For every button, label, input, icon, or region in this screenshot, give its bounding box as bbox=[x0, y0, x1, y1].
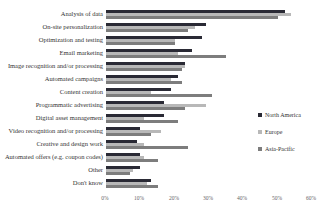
bar-chart: Analysis of dataOn-site personalizationO… bbox=[0, 0, 325, 219]
bar-group bbox=[106, 75, 311, 84]
category-label: Creative and design work bbox=[0, 141, 106, 148]
category-label: Automated offers (e.g. coupon codes) bbox=[0, 154, 106, 161]
bar-group bbox=[106, 36, 311, 45]
bar-group bbox=[106, 62, 311, 71]
category-label: Automated campaigns bbox=[0, 76, 106, 83]
bar-asia-pacific bbox=[106, 133, 151, 136]
category-label: Email marketing bbox=[0, 50, 106, 57]
bar-asia-pacific bbox=[106, 120, 178, 123]
x-tick-label: 30% bbox=[203, 195, 213, 201]
bar-group bbox=[106, 179, 311, 188]
bar-group bbox=[106, 23, 311, 32]
legend: North AmericaEuropeAsia-Pacific bbox=[258, 111, 301, 162]
chart-row: Analysis of data bbox=[0, 8, 311, 21]
chart-row: Automated campaigns bbox=[0, 73, 311, 86]
bar-group bbox=[106, 101, 311, 110]
legend-item-asia-pacific: Asia-Pacific bbox=[258, 145, 301, 152]
legend-label: Asia-Pacific bbox=[265, 146, 295, 152]
category-label: Video recognition and/or processing bbox=[0, 128, 106, 135]
chart-row: Image recognition and/or processing bbox=[0, 60, 311, 73]
bar-asia-pacific bbox=[106, 159, 158, 162]
legend-item-north-america: North America bbox=[258, 111, 301, 118]
chart-row: Other bbox=[0, 164, 311, 177]
bar-asia-pacific bbox=[106, 146, 188, 149]
x-tick-label: 60% bbox=[306, 195, 316, 201]
bar-group bbox=[106, 166, 311, 175]
x-tick-label: 0% bbox=[101, 195, 108, 201]
category-label: On-site personalization bbox=[0, 24, 106, 31]
category-label: Digital asset management bbox=[0, 115, 106, 122]
legend-label: North America bbox=[265, 112, 301, 118]
chart-row: Content creation bbox=[0, 86, 311, 99]
bar-asia-pacific bbox=[106, 185, 158, 188]
chart-row: Email marketing bbox=[0, 47, 311, 60]
x-tick-label: 40% bbox=[237, 195, 247, 201]
legend-item-europe: Europe bbox=[258, 128, 301, 135]
category-label: Content creation bbox=[0, 89, 106, 96]
plot-area: Analysis of dataOn-site personalizationO… bbox=[0, 8, 311, 190]
chart-row: Optimization and testing bbox=[0, 34, 311, 47]
chart-row: Don't know bbox=[0, 177, 311, 190]
category-label: Analysis of data bbox=[0, 11, 106, 18]
bar-asia-pacific bbox=[106, 16, 278, 19]
bar-asia-pacific bbox=[106, 29, 188, 32]
category-label: Programmatic advertising bbox=[0, 102, 106, 109]
x-tick-label: 10% bbox=[134, 195, 144, 201]
x-tick-label: 50% bbox=[272, 195, 282, 201]
bar-group bbox=[106, 10, 311, 19]
bar-asia-pacific bbox=[106, 68, 182, 71]
bar-group bbox=[106, 88, 311, 97]
x-tick-label: 20% bbox=[169, 195, 179, 201]
legend-marker-icon bbox=[258, 147, 262, 151]
x-axis: 0%10%20%30%40%50%60% bbox=[105, 195, 311, 205]
bar-asia-pacific bbox=[106, 107, 185, 110]
bar-group bbox=[106, 49, 311, 58]
bar-asia-pacific bbox=[106, 94, 212, 97]
legend-label: Europe bbox=[265, 129, 282, 135]
bar-asia-pacific bbox=[106, 81, 182, 84]
chart-row: On-site personalization bbox=[0, 21, 311, 34]
bar-asia-pacific bbox=[106, 42, 175, 45]
bar-asia-pacific bbox=[106, 55, 226, 58]
legend-marker-icon bbox=[258, 113, 262, 117]
bar-asia-pacific bbox=[106, 172, 130, 175]
category-label: Image recognition and/or processing bbox=[0, 63, 106, 70]
category-label: Other bbox=[0, 167, 106, 174]
category-label: Don't know bbox=[0, 180, 106, 187]
category-label: Optimization and testing bbox=[0, 37, 106, 44]
legend-marker-icon bbox=[258, 130, 262, 134]
